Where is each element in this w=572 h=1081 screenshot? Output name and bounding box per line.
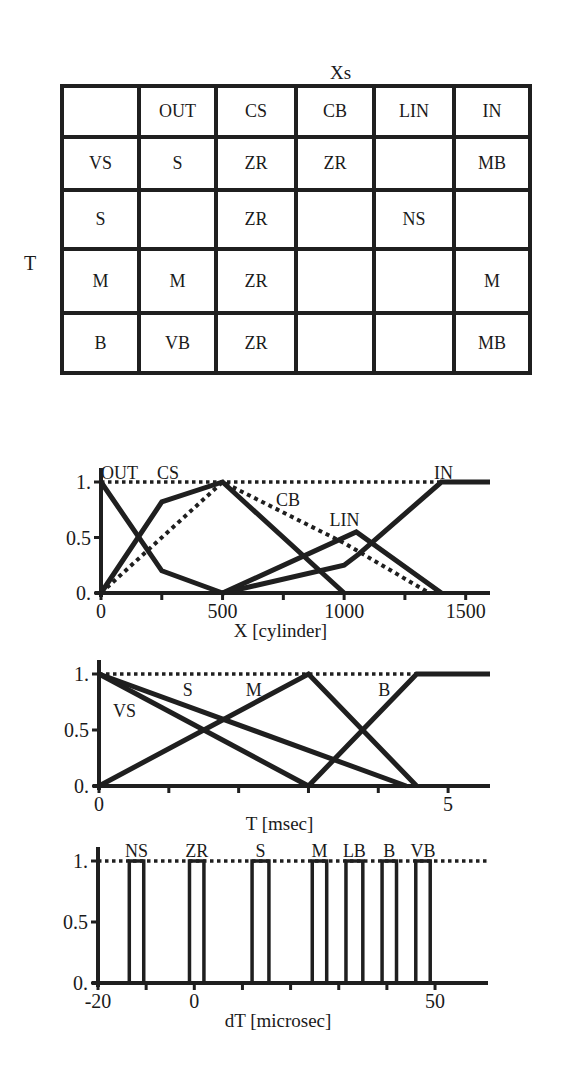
bar-zr xyxy=(189,861,203,983)
y-tick-label: 0.5 xyxy=(63,911,88,933)
bar-vb xyxy=(416,861,430,983)
chart-dt-membership: NSZRSMLBBVB0.0.51.-20050dT [microsec] xyxy=(0,0,572,1081)
bar-label: LB xyxy=(343,841,366,861)
bar-label: B xyxy=(383,841,395,861)
x-tick-label: -20 xyxy=(85,990,112,1012)
x-axis-label: dT [microsec] xyxy=(225,1010,332,1031)
bar-label: NS xyxy=(125,841,148,861)
bar-label: ZR xyxy=(185,841,208,861)
y-tick-label: 1. xyxy=(73,850,88,872)
x-tick-label: 0 xyxy=(189,990,199,1012)
bar-m xyxy=(312,861,326,983)
bar-ns xyxy=(129,861,143,983)
x-tick-label: 50 xyxy=(425,990,445,1012)
bar-s xyxy=(252,861,269,983)
bar-label: M xyxy=(311,841,327,861)
bar-label: S xyxy=(255,841,265,861)
bar-lb xyxy=(346,861,363,983)
bar-label: VB xyxy=(410,841,435,861)
bar-b xyxy=(382,861,396,983)
